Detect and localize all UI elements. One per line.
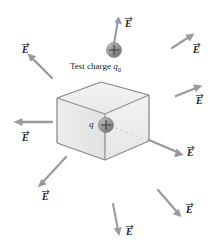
field-vector-left-arrow [14, 118, 53, 126]
field-vector-label-text: E [22, 44, 29, 55]
field-vector-lower-left-label: E [42, 192, 49, 202]
field-vector-label-text: E [196, 95, 203, 106]
field-vector-label-text: E [187, 147, 194, 158]
field-vector-test-charge-arrow [114, 17, 122, 45]
figure-graphics-layer [0, 0, 215, 251]
test-charge-caption-subscript: 0 [118, 66, 121, 73]
enclosed-charge-label: q [89, 120, 94, 129]
field-vector-lower-right-label: E [186, 205, 193, 215]
field-vector-label-text: E [22, 132, 29, 143]
field-vector-bottom-label: E [126, 227, 133, 237]
electric-field-gaussian-surface-figure: E E E E E E E [0, 0, 215, 251]
field-vector-left-label: E [22, 133, 29, 143]
field-vector-label-text: E [126, 226, 133, 237]
field-vector-upper-right-label: E [193, 45, 200, 55]
field-vector-lower-right-arrow [158, 190, 182, 217]
field-vector-bottom-arrow [113, 204, 122, 236]
field-vector-upper-left-arrow [28, 54, 53, 79]
field-vector-right-label: E [187, 148, 194, 158]
field-vector-upper-right-arrow [172, 34, 195, 49]
field-vector-middle-right-label: E [196, 96, 203, 106]
field-vector-label-text: E [193, 44, 200, 55]
enclosed-charge-sphere [99, 118, 114, 133]
field-vector-lower-left-arrow [38, 157, 67, 188]
field-vector-test-charge-label: E [125, 19, 132, 29]
field-vector-upper-left-label: E [22, 45, 29, 55]
field-vector-label-text: E [42, 191, 49, 202]
test-charge-caption-prefix: Test charge [70, 61, 113, 71]
test-charge-caption: Test charge q0 [70, 62, 121, 73]
field-vector-label-text: E [125, 18, 132, 29]
field-vector-label-text: E [186, 204, 193, 215]
field-vector-right-arrow [149, 140, 184, 157]
